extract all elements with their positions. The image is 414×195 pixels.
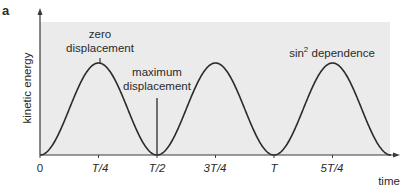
x-axis-arrow-icon [393,153,400,158]
x-tick-label: T/4 [92,162,109,174]
annotation-dependence: dependence [308,47,375,59]
annotation-zero-line2: displacement [66,42,135,54]
x-tick-label: 3T/4 [203,162,226,174]
annotation-max-line2: displacement [123,80,192,92]
kinetic-energy-chart: a 0 T/4 T/2 3T/4 T 5T/4 time kinetic ene… [0,0,414,195]
panel-label: a [2,3,10,18]
x-tick-label: 0 [37,162,43,174]
annotation-max-line1: maximum [132,66,182,78]
annotation-sin: sin [289,47,304,59]
annotation-zero-line1: zero [89,28,111,40]
y-axis-arrow-icon [38,8,43,15]
x-tick-label: 5T/4 [320,162,343,174]
y-axis-title: kinetic energy [21,52,33,123]
x-axis-title: time [378,175,400,187]
annotation-sin2-dependence: sin2 dependence [289,45,375,59]
x-tick-label: T/2 [149,162,166,174]
x-tick-label: T [270,162,278,174]
